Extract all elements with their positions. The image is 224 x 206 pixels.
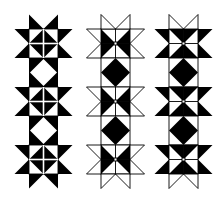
- star-point-right: [198, 160, 213, 175]
- core-center-square: [182, 158, 185, 161]
- star-point-right: [130, 87, 145, 102]
- star-point-right: [198, 44, 213, 59]
- star-point-left: [15, 160, 30, 175]
- star-point-right: [130, 102, 145, 117]
- core-center-square: [114, 158, 117, 161]
- star-point-right: [198, 87, 213, 102]
- star-point-left: [87, 145, 102, 160]
- star-point-right: [198, 145, 213, 160]
- star-point-bottom: [116, 174, 131, 189]
- star-point-left: [15, 44, 30, 59]
- star-point-bottom: [101, 174, 116, 189]
- star-point-right: [130, 145, 145, 160]
- star-point-bottom: [44, 174, 59, 189]
- star-point-left: [15, 29, 30, 44]
- star-point-left: [155, 160, 170, 175]
- star-point-bottom: [29, 174, 44, 189]
- core-center-square: [114, 100, 117, 103]
- core-center-square: [114, 42, 117, 45]
- star-point-bottom: [169, 174, 184, 189]
- star-point-left: [155, 29, 170, 44]
- star-point-top: [184, 15, 199, 30]
- core-center-square: [182, 100, 185, 103]
- star-point-right: [58, 87, 73, 102]
- star-point-right: [58, 145, 73, 160]
- star-point-top: [101, 15, 116, 30]
- star-point-right: [130, 44, 145, 59]
- star-point-left: [155, 87, 170, 102]
- star-point-left: [87, 87, 102, 102]
- star-point-left: [15, 87, 30, 102]
- star-point-left: [87, 160, 102, 175]
- star-point-left: [155, 44, 170, 59]
- star-point-right: [130, 29, 145, 44]
- star-point-top: [44, 15, 59, 30]
- star-point-top: [29, 15, 44, 30]
- star-point-right: [198, 29, 213, 44]
- quilt-pattern-figure: [0, 0, 224, 206]
- star-point-left: [87, 44, 102, 59]
- star-point-left: [87, 102, 102, 117]
- star-point-bottom: [184, 174, 199, 189]
- star-point-right: [58, 29, 73, 44]
- star-point-top: [169, 15, 184, 30]
- star-point-left: [15, 102, 30, 117]
- star-point-right: [58, 102, 73, 117]
- star-point-right: [198, 102, 213, 117]
- core-center-square: [182, 42, 185, 45]
- star-point-right: [58, 44, 73, 59]
- star-point-left: [155, 102, 170, 117]
- star-point-left: [155, 145, 170, 160]
- star-point-right: [130, 160, 145, 175]
- star-point-left: [87, 29, 102, 44]
- star-point-left: [15, 145, 30, 160]
- star-point-top: [116, 15, 131, 30]
- star-point-right: [58, 160, 73, 175]
